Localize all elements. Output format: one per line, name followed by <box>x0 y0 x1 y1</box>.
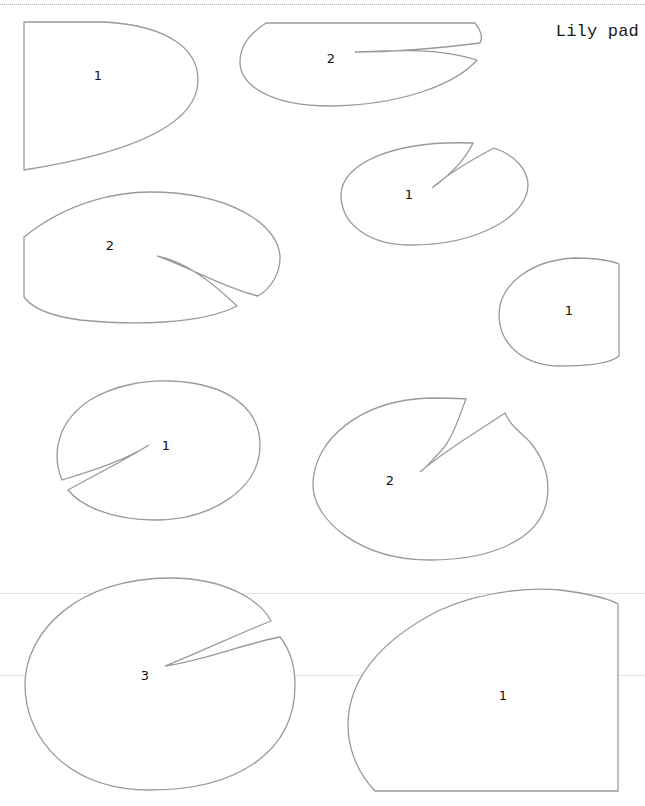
piece-label: 2 <box>106 238 114 253</box>
lily-pad-piece[interactable]: 3 <box>25 578 295 790</box>
piece-label: 1 <box>405 187 413 202</box>
lily-pad-piece[interactable]: 2 <box>24 192 280 323</box>
piece-label: 2 <box>386 473 394 488</box>
lily-pad-piece[interactable]: 1 <box>57 381 260 520</box>
piece-label: 1 <box>162 438 170 453</box>
piece-label: 2 <box>327 51 335 66</box>
lily-pad-piece[interactable]: 1 <box>341 143 528 245</box>
lily-pad-piece[interactable]: 1 <box>348 589 618 791</box>
piece-label: 1 <box>94 68 102 83</box>
lily-pad-piece[interactable]: 2 <box>240 23 481 106</box>
lily-pad-piece[interactable]: 2 <box>313 398 548 560</box>
piece-label: 1 <box>565 303 573 318</box>
piece-label: 3 <box>141 668 149 683</box>
lily-pad-sheet: 1 2 1 2 1 1 2 3 1 <box>0 0 645 806</box>
lily-pad-piece[interactable]: 1 <box>499 258 619 366</box>
piece-label: 1 <box>499 688 507 703</box>
lily-pad-piece[interactable]: 1 <box>24 22 198 170</box>
